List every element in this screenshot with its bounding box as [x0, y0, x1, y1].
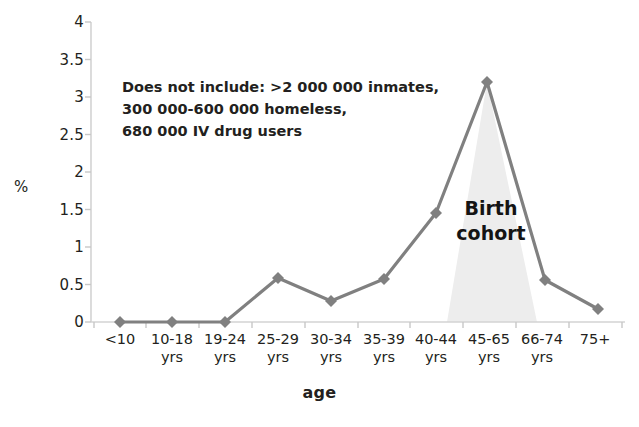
x-axis-title: age — [0, 383, 639, 402]
x-tick-label-9: 75+ — [560, 330, 630, 348]
x-tick-label-9-line1: 75+ — [560, 330, 630, 348]
chart-canvas: 4 3.5 3 2.5 2 1.5 1 0.5 0 % <10 10-18 yr… — [0, 0, 639, 427]
exclusion-note-line-2: 300 000-600 000 homeless, — [122, 98, 439, 120]
birth-cohort-label-line-2: cohort — [432, 221, 550, 246]
exclusion-note-annotation: Does not include: >2 000 000 inmates, 30… — [122, 76, 439, 142]
exclusion-note-line-1: Does not include: >2 000 000 inmates, — [122, 76, 439, 98]
x-tick-label-8-line2: yrs — [507, 348, 577, 366]
exclusion-note-line-3: 680 000 IV drug users — [122, 120, 439, 142]
birth-cohort-label: Birth cohort — [432, 196, 550, 246]
birth-cohort-label-line-1: Birth — [432, 196, 550, 221]
